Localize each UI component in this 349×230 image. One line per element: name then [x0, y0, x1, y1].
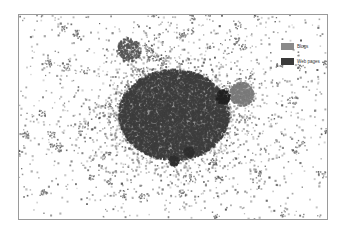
legend-label-web-pages: Web pages	[297, 59, 320, 64]
legend-item-web-pages: Web pages	[281, 57, 320, 66]
legend-item-blogs: Blogs	[281, 42, 320, 51]
legend-swatch-web-pages	[281, 58, 294, 65]
legend: Blogs Web pages	[281, 42, 320, 72]
legend-label-blogs: Blogs	[297, 44, 308, 49]
legend-swatch-blogs	[281, 43, 294, 50]
graph-frame: Blogs Web pages	[18, 14, 328, 220]
